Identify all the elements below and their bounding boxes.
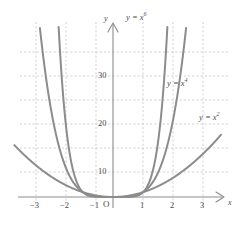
xtick-label-2: 2 — [170, 200, 174, 210]
ytick-label-10: 10 — [98, 166, 107, 176]
xtick-label--1: −1 — [90, 200, 99, 210]
vertical-gridlines — [36, 22, 203, 207]
curve-yx — [14, 135, 221, 197]
ytick-label-30: 30 — [98, 70, 107, 80]
x-axis-label: x — [228, 198, 232, 207]
xtick-label-1: 1 — [140, 200, 144, 210]
curve-group — [14, 27, 221, 197]
y-axis — [108, 23, 118, 208]
function-graph-figure: y x O −3 −2 −1 1 2 3 10 20 30 y = x6 y =… — [0, 0, 245, 234]
curve-label-x6: y = x6 — [126, 11, 147, 22]
origin-label: O — [103, 199, 110, 209]
xtick-label--3: −3 — [30, 200, 39, 210]
xtick-label--2: −2 — [60, 200, 69, 210]
ytick-label-20: 20 — [98, 118, 107, 128]
xtick-label-3: 3 — [200, 200, 204, 210]
y-axis-label: y — [104, 14, 108, 23]
curve-label-x2: y = x2 — [199, 111, 220, 122]
curve-label-x4: y = x4 — [167, 77, 188, 88]
